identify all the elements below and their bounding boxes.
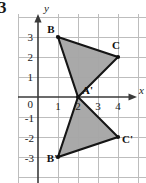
vertex-c — [116, 55, 120, 59]
vertex-b — [56, 35, 60, 39]
vertex-c-prime — [116, 135, 120, 139]
y-tick-neg1: -1 — [25, 112, 34, 124]
point-label-b-prime: B' — [47, 152, 57, 164]
y-tick-2: 2 — [28, 51, 34, 63]
y-tick-1: 1 — [28, 71, 34, 83]
x-axis-label: x — [138, 84, 144, 96]
y-tick-neg2: -2 — [25, 132, 34, 144]
y-tick-neg3: -3 — [25, 152, 35, 164]
x-tick-4: 4 — [115, 100, 121, 112]
figure-container: 3 — [0, 0, 146, 183]
point-label-b: B — [47, 23, 55, 35]
y-axis-label: y — [43, 2, 49, 14]
x-tick-2: 2 — [75, 100, 81, 112]
y-axis-arrow — [34, 14, 41, 23]
vertex-a-prime — [76, 95, 80, 99]
triangle-image — [58, 97, 118, 157]
coordinate-plane-diagram: 3 2 1 0 -1 -2 -3 1 2 3 4 y x B C A' C' B… — [0, 0, 146, 183]
x-axis-arrow — [129, 93, 138, 100]
x-tick-3: 3 — [95, 100, 101, 112]
y-tick-0: 0 — [28, 98, 34, 110]
y-tick-3: 3 — [28, 31, 34, 43]
point-label-c: C — [112, 39, 120, 51]
point-label-a-prime: A' — [82, 84, 93, 96]
point-label-c-prime: C' — [122, 133, 133, 145]
x-tick-1: 1 — [55, 100, 61, 112]
